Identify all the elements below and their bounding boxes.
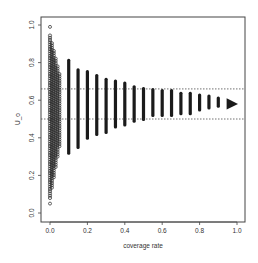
point-column bbox=[105, 78, 108, 134]
x-tick-label: 0.6 bbox=[158, 227, 167, 234]
y-tick-label: 0.6 bbox=[28, 95, 35, 104]
x-tick-label: 0.2 bbox=[83, 227, 92, 234]
point-column bbox=[123, 81, 126, 126]
converging-tail bbox=[227, 98, 238, 109]
y-tick-label: 0.4 bbox=[28, 133, 35, 142]
point-column bbox=[170, 89, 173, 117]
point-column bbox=[86, 70, 89, 140]
scatter-chart: 0.00.20.40.60.81.0 0.00.20.40.60.81.0 co… bbox=[0, 0, 258, 263]
y-tick-label: 1.0 bbox=[28, 20, 35, 29]
data-point-columns bbox=[67, 59, 238, 155]
point-column bbox=[142, 87, 145, 121]
point-column bbox=[114, 80, 117, 129]
y-axis-label: U_o bbox=[14, 113, 22, 125]
point-column bbox=[189, 92, 192, 116]
x-axis-label: coverage rate bbox=[123, 242, 163, 250]
y-tick-label: 0.2 bbox=[28, 171, 35, 180]
point-column bbox=[133, 85, 136, 123]
x-tick-label: 0.0 bbox=[45, 227, 54, 234]
point-column bbox=[161, 89, 164, 117]
y-tick-label: 0.8 bbox=[28, 58, 35, 67]
point-column bbox=[151, 88, 154, 117]
x-axis: 0.00.20.40.60.81.0 bbox=[45, 222, 241, 234]
y-axis: 0.00.20.40.60.81.0 bbox=[28, 20, 41, 217]
x-tick-label: 0.4 bbox=[120, 227, 129, 234]
dense-point-cluster bbox=[48, 25, 61, 205]
point-column bbox=[207, 95, 210, 110]
point-column bbox=[95, 74, 98, 136]
x-tick-label: 1.0 bbox=[232, 227, 241, 234]
point-column bbox=[67, 59, 70, 155]
point-column bbox=[179, 92, 182, 116]
y-tick-label: 0.0 bbox=[28, 208, 35, 217]
point-column bbox=[217, 96, 220, 107]
point-column bbox=[198, 94, 201, 112]
chart-canvas: 0.00.20.40.60.81.0 0.00.20.40.60.81.0 co… bbox=[0, 0, 258, 263]
point-column bbox=[76, 68, 79, 149]
x-tick-label: 0.8 bbox=[195, 227, 204, 234]
